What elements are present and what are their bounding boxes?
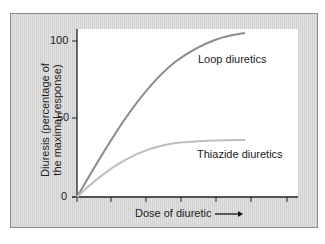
arrowhead-icon	[238, 211, 243, 217]
y-axis-label: Diuresis (percentage of the maximal resp…	[39, 25, 63, 215]
y-axis-label-line2: the maximal response)	[51, 25, 63, 215]
x-ticks	[77, 197, 287, 202]
x-axis-label: Dose of diuretic	[135, 207, 211, 219]
y-axis-label-line1: Diuresis (percentage of	[39, 25, 51, 215]
loop-diuretics-label: Loop diuretics	[198, 53, 267, 65]
thiazide-diuretics-label: Thiazide diuretics	[197, 148, 283, 160]
